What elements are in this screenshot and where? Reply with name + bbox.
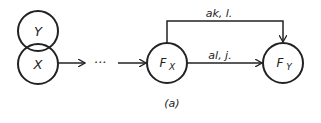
- svg-text:F: F: [277, 56, 285, 70]
- node-fx: F X: [147, 43, 187, 83]
- node-fy: F Y: [263, 43, 303, 83]
- edge-label-direct: al, j.: [208, 49, 231, 62]
- diagram-canvas: Y X ··· F X F Y al, j. ak, l. (a): [0, 0, 321, 123]
- svg-text:X: X: [33, 57, 44, 72]
- svg-text:Y: Y: [34, 24, 43, 39]
- ellipsis: ···: [94, 55, 106, 70]
- edge-label-over: ak, l.: [206, 7, 233, 20]
- edge-fx-to-fy-over: [167, 21, 283, 43]
- caption: (a): [164, 97, 179, 110]
- svg-text:Y: Y: [286, 62, 293, 72]
- svg-text:F: F: [160, 56, 168, 70]
- svg-text:X: X: [168, 62, 176, 72]
